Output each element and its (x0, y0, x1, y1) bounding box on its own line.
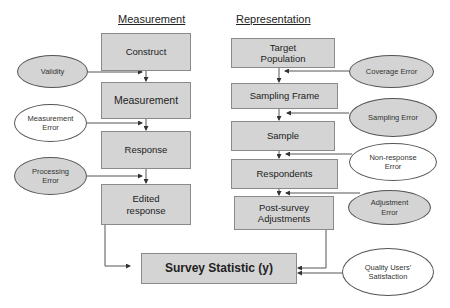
measurement-box: Measurement (101, 82, 191, 119)
sampling-error-label: Sampling Error (368, 113, 418, 122)
adjustment-error-label: Adjustment Error (365, 198, 415, 217)
measurement-heading: Measurement (118, 13, 185, 25)
edited-response-box: Edited response (101, 184, 191, 225)
response-label: Response (125, 144, 168, 155)
respondents-box: Respondents (231, 159, 338, 189)
validity-ellipse: Validity (17, 55, 88, 88)
processing-error-ellipse: Processing Error (14, 157, 87, 195)
representation-heading: Representation (236, 13, 311, 25)
measurement-error-label: Measurement Error (26, 114, 76, 133)
post-survey-adjustments-box: Post-survey Adjustments (234, 196, 334, 230)
sample-box: Sample (231, 121, 335, 151)
non-response-error-ellipse: Non-response Error (349, 143, 437, 181)
measurement-error-ellipse: Measurement Error (14, 104, 87, 142)
construct-label: Construct (126, 46, 167, 57)
sampling-error-ellipse: Sampling Error (349, 98, 437, 137)
coverage-error-ellipse: Coverage Error (349, 55, 434, 88)
coverage-error-label: Coverage Error (366, 67, 417, 76)
sampling-frame-label: Sampling Frame (250, 90, 320, 101)
respondents-label: Respondents (257, 168, 313, 179)
edited-response-label: Edited response (121, 193, 171, 216)
measurement-label: Measurement (114, 94, 178, 107)
adjustment-error-ellipse: Adjustment Error (348, 190, 431, 225)
target-population-box: Target Population (231, 38, 335, 68)
validity-label: Validity (41, 67, 65, 76)
quality-users-satisfaction-ellipse: Quality Users' Satisfaction (342, 248, 434, 296)
response-box: Response (101, 131, 191, 169)
construct-box: Construct (101, 33, 191, 71)
survey-statistic-label: Survey Statistic (y) (165, 261, 273, 275)
processing-error-label: Processing Error (28, 167, 73, 186)
target-population-label: Target Population (253, 42, 313, 65)
sampling-frame-box: Sampling Frame (231, 83, 338, 109)
quality-users-satisfaction-label: Quality Users' Satisfaction (359, 263, 417, 282)
sample-label: Sample (267, 130, 299, 141)
non-response-error-label: Non-response Error (363, 153, 423, 172)
post-survey-adjustments-label: Post-survey Adjustments (249, 202, 319, 225)
survey-statistic-box: Survey Statistic (y) (141, 253, 297, 284)
